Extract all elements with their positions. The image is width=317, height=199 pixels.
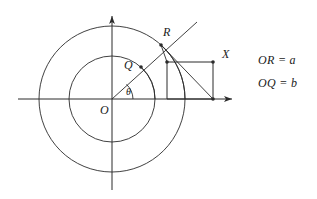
radius-arc-outer [161, 45, 185, 99]
label-origin: O [100, 104, 109, 116]
rect-bottom-right-dot [211, 97, 215, 101]
figure-canvas: O Q R X θ OR = a OQ = b [0, 0, 317, 199]
point-r-dot [159, 43, 163, 47]
chord-r-to-corner [161, 45, 213, 99]
radius-arc-inner [141, 67, 155, 99]
rect-top-left-dot [165, 60, 169, 64]
legend-line-or: OR = a [258, 53, 296, 68]
legend-line-oq: OQ = b [258, 76, 297, 91]
geometry-diagram [0, 0, 317, 199]
label-point-r: R [163, 26, 170, 38]
label-angle-theta: θ [126, 87, 131, 97]
label-point-q: Q [124, 59, 133, 71]
label-point-x: X [222, 48, 229, 60]
rect-top-right-dot [211, 60, 215, 64]
point-q-dot [139, 65, 143, 69]
